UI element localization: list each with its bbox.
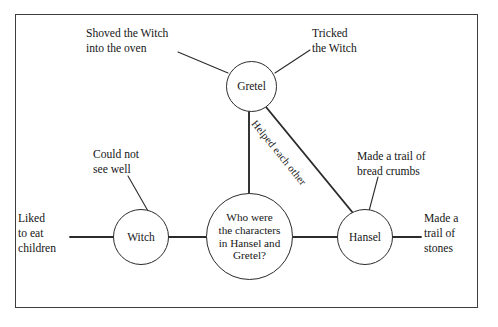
node-gretel-label: Gretel xyxy=(237,80,266,93)
center-node-label: Who were the characters in Hansel and Gr… xyxy=(217,211,283,261)
figure-canvas: Who were the characters in Hansel and Gr… xyxy=(0,0,498,327)
connector-witch-seewell xyxy=(128,176,148,211)
node-gretel: Gretel xyxy=(226,61,277,112)
connector-gretel-tricked xyxy=(275,50,310,73)
node-hansel-label: Hansel xyxy=(349,231,381,244)
node-witch: Witch xyxy=(113,209,169,265)
node-witch-label: Witch xyxy=(127,231,155,244)
connector-gretel-oven xyxy=(178,52,228,73)
caption-liked-to-eat-children: Liked to eat children xyxy=(18,212,56,256)
center-node-question: Who were the characters in Hansel and Gr… xyxy=(206,193,293,280)
caption-could-not-see-well: Could not see well xyxy=(93,148,139,178)
node-hansel: Hansel xyxy=(337,209,393,265)
connector-hansel-crumbs xyxy=(369,177,378,211)
caption-made-trail-of-stones: Made a trail of stones xyxy=(424,212,458,256)
caption-tricked-the-witch: Tricked the Witch xyxy=(312,27,357,57)
caption-made-trail-of-bread-crumbs: Made a trail of bread crumbs xyxy=(357,150,426,180)
caption-shoved-witch-into-oven: Shoved the Witch into the oven xyxy=(86,27,168,57)
